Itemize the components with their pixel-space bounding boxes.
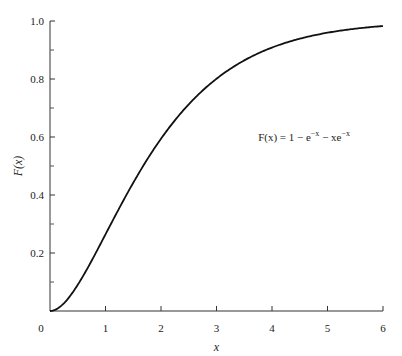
formula-annotation: F(x) = 1 − e−x − xe−x	[258, 129, 350, 144]
x-tick-label: 6	[380, 322, 386, 334]
axes	[50, 21, 383, 311]
x-tick-label: 4	[269, 322, 275, 334]
y-tick-label: 0.8	[30, 73, 44, 85]
x-tick-label: 3	[214, 322, 220, 334]
cdf-chart: 01234560.20.40.60.81.0 x F(x) F(x) = 1 −…	[0, 0, 402, 356]
y-tick-label: 0.2	[30, 247, 44, 259]
ticks: 01234560.20.40.60.81.0	[30, 15, 386, 334]
x-tick-label: 0	[38, 322, 44, 334]
x-tick-label: 1	[103, 322, 109, 334]
x-tick-label: 2	[158, 322, 164, 334]
y-tick-label: 0.4	[30, 189, 44, 201]
y-tick-label: 1.0	[30, 15, 44, 27]
x-tick-label: 5	[325, 322, 331, 334]
cdf-curve	[50, 26, 383, 311]
y-axis-label: F(x)	[11, 156, 25, 178]
x-axis-label: x	[213, 340, 220, 354]
y-tick-label: 0.6	[30, 131, 44, 143]
